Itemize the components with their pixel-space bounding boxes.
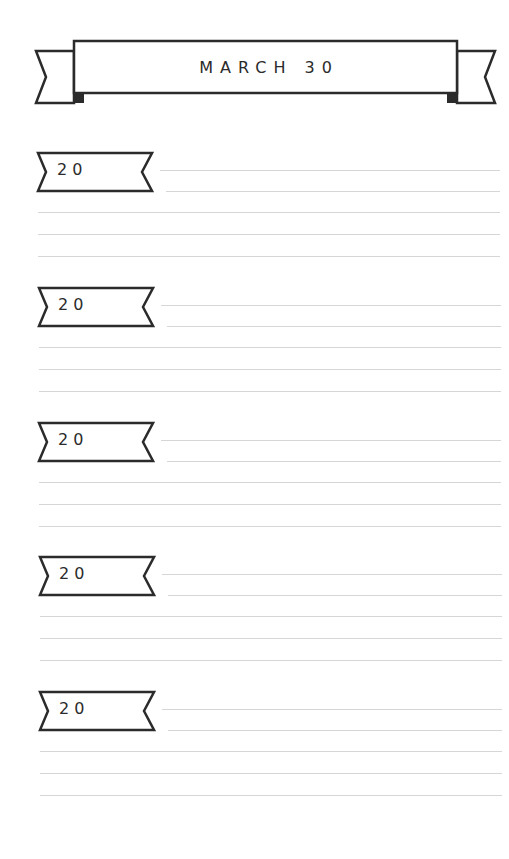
writing-line[interactable] — [40, 751, 502, 752]
year-prefix: 20 — [59, 699, 89, 718]
writing-line[interactable] — [39, 526, 501, 527]
writing-line[interactable] — [39, 482, 501, 483]
writing-line[interactable] — [161, 440, 501, 441]
year-entry: 20 — [0, 421, 509, 541]
writing-line[interactable] — [40, 660, 502, 661]
year-prefix: 20 — [58, 295, 88, 314]
writing-line[interactable] — [168, 595, 502, 596]
writing-line[interactable] — [162, 709, 502, 710]
writing-line[interactable] — [40, 638, 502, 639]
writing-line[interactable] — [40, 795, 502, 796]
writing-line[interactable] — [160, 170, 500, 171]
year-entry: 20 — [0, 286, 509, 406]
writing-line[interactable] — [166, 191, 500, 192]
year-entry: 20 — [0, 555, 509, 675]
writing-line[interactable] — [167, 326, 501, 327]
writing-line[interactable] — [161, 305, 501, 306]
writing-line[interactable] — [167, 461, 501, 462]
writing-line[interactable] — [40, 773, 502, 774]
year-prefix: 20 — [59, 564, 89, 583]
writing-line[interactable] — [39, 369, 501, 370]
writing-line[interactable] — [162, 574, 502, 575]
year-tag-icon — [36, 151, 154, 193]
date-banner: MARCH 30 — [0, 0, 509, 110]
year-tag-icon — [37, 421, 155, 463]
year-tag-icon — [38, 555, 156, 597]
year-entry: 20 — [0, 690, 509, 810]
year-tag-icon — [37, 286, 155, 328]
writing-line[interactable] — [38, 212, 500, 213]
year-prefix: 20 — [58, 430, 88, 449]
writing-line[interactable] — [39, 391, 501, 392]
writing-line[interactable] — [39, 347, 501, 348]
year-prefix: 20 — [57, 160, 87, 179]
writing-line[interactable] — [38, 256, 500, 257]
writing-line[interactable] — [168, 730, 502, 731]
page-title: MARCH 30 — [74, 41, 457, 93]
writing-line[interactable] — [38, 234, 500, 235]
writing-line[interactable] — [39, 504, 501, 505]
writing-line[interactable] — [40, 616, 502, 617]
year-entry: 20 — [0, 151, 509, 271]
year-tag-icon — [38, 690, 156, 732]
